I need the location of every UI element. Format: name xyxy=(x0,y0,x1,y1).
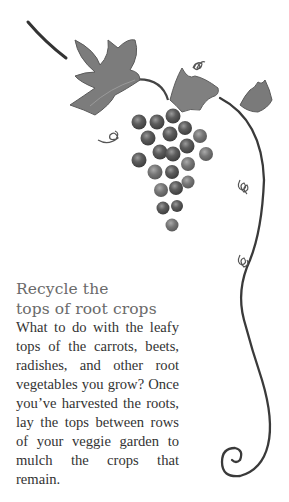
heading-line-2: tops of root crops xyxy=(16,299,216,319)
article-heading: Recycle the tops of root crops xyxy=(16,279,216,319)
small-leaf-icon xyxy=(240,80,272,112)
right-vine-icon xyxy=(220,98,270,476)
tendril-icon xyxy=(98,131,118,143)
large-leaf-icon xyxy=(70,40,140,115)
vine-stem-icon xyxy=(28,22,66,58)
grape-cluster-icon xyxy=(132,109,214,232)
tendril-icon xyxy=(238,255,248,267)
middle-leaf-icon xyxy=(170,68,218,112)
tendril-icon xyxy=(193,62,205,70)
heading-line-1: Recycle the xyxy=(16,279,216,299)
article-body: What to do with the leafy tops of the ca… xyxy=(16,318,179,489)
tendril-icon xyxy=(238,180,248,194)
